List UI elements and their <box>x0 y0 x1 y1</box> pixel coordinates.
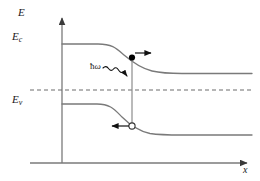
band-diagram-canvas <box>0 0 260 181</box>
photon-omega-symbol: ω <box>95 61 101 71</box>
conduction-band-label: Ec <box>12 31 22 44</box>
y-axis-label: E <box>18 7 25 18</box>
valence-band-label: Ev <box>12 94 22 107</box>
valence-band-label-base: E <box>12 93 19 105</box>
hole-marker-group <box>112 123 135 129</box>
photon-energy-label: ħω <box>90 62 101 71</box>
conduction-band-label-base: E <box>12 30 19 42</box>
x-axis-label: x <box>243 165 247 175</box>
electron-marker-group <box>129 53 151 61</box>
photon-wavy-arrow-icon <box>103 67 127 76</box>
hole-circle-icon <box>129 123 135 129</box>
electron-dot-icon <box>129 54 135 60</box>
valence-band-label-subscript: v <box>19 98 23 107</box>
conduction-band-label-subscript: c <box>19 35 23 44</box>
band-diagram-figure: E Ec Ev x ħω <box>0 0 260 181</box>
valence-band-curve <box>62 104 252 135</box>
